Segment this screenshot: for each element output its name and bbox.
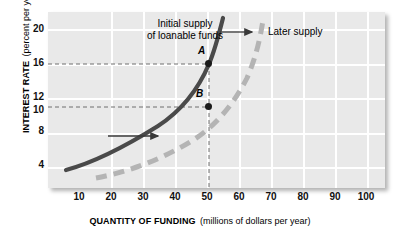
plot-area: A B Initial supply of loanable funds Lat… (48, 12, 385, 188)
point-b-label: B (196, 88, 203, 99)
chart-figure: INTEREST RATE (percent per year) QUANTIT… (0, 0, 400, 233)
x-tick-20: 20 (98, 192, 124, 202)
x-tick-70: 70 (258, 192, 284, 202)
initial-supply-line2: of loanable funds (126, 30, 244, 42)
x-axis-title: QUANTITY OF FUNDING (millions of dollars… (0, 210, 400, 228)
point-a-label: A (198, 45, 205, 56)
y-tick-16: 16 (22, 58, 44, 68)
curve-later-supply (96, 20, 263, 178)
y-tick-12: 12 (22, 92, 44, 102)
y-tick-10: 10 (22, 105, 44, 115)
x-tick-50: 50 (194, 192, 220, 202)
x-tick-30: 30 (130, 192, 156, 202)
initial-supply-line1: Initial supply (126, 18, 244, 30)
y-tick-4: 4 (22, 160, 44, 170)
x-tick-40: 40 (162, 192, 188, 202)
x-tick-10: 10 (66, 192, 92, 202)
point-b-marker (205, 103, 212, 110)
y-tick-20: 20 (22, 24, 44, 34)
x-tick-80: 80 (290, 192, 316, 202)
x-tick-100: 100 (353, 192, 379, 202)
y-tick-8: 8 (22, 126, 44, 136)
x-axis-title-main: QUANTITY OF FUNDING (89, 216, 195, 226)
point-a-marker (205, 60, 212, 67)
x-tick-60: 60 (226, 192, 252, 202)
x-tick-90: 90 (322, 192, 348, 202)
initial-supply-annotation: Initial supply of loanable funds (126, 18, 244, 42)
x-axis-title-unit: (millions of dollars per year) (200, 216, 311, 226)
later-supply-annotation: Later supply (268, 26, 322, 38)
